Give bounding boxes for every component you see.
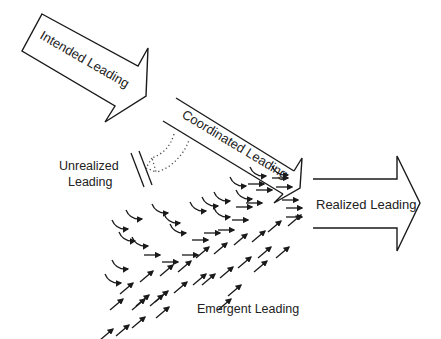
curved-arrow xyxy=(105,274,121,283)
curved-arrow xyxy=(152,204,168,213)
diagonal-arrow xyxy=(174,282,187,293)
diagonal-arrow xyxy=(220,267,233,278)
diagonal-arrow xyxy=(276,247,289,258)
diagonal-arrow xyxy=(196,247,209,258)
unrealized-leading-group: Unrealized Leading xyxy=(59,134,189,189)
curved-arrow xyxy=(190,202,206,211)
curved-arrow xyxy=(230,177,246,186)
diagonal-arrow xyxy=(238,257,251,268)
dotted-arrow-notch xyxy=(146,158,156,172)
diagonal-arrow xyxy=(120,283,133,294)
diagonal-arrow xyxy=(156,307,169,318)
curved-arrow xyxy=(214,208,230,217)
diagonal-arrow xyxy=(132,299,145,310)
diagonal-arrow xyxy=(214,243,227,254)
emergent-leading-label: Emergent Leading xyxy=(197,302,299,316)
diagonal-arrow xyxy=(132,317,145,328)
curved-arrow xyxy=(214,192,230,201)
curved-arrow xyxy=(132,237,148,246)
curved-arrow xyxy=(126,210,142,219)
curved-arrow xyxy=(202,197,218,206)
diagonal-arrow xyxy=(160,265,173,276)
unrealized-label-line1: Unrealized xyxy=(59,159,119,173)
curved-arrow xyxy=(112,260,128,269)
diagonal-arrow xyxy=(228,285,241,296)
diagonal-arrow xyxy=(110,299,123,310)
unrealized-label-line2: Leading xyxy=(68,175,113,189)
diagonal-arrow xyxy=(254,261,267,272)
diagonal-arrow xyxy=(258,247,271,258)
diagonal-arrow xyxy=(116,325,129,336)
diagonal-arrow xyxy=(234,234,247,245)
diagonal-arrow xyxy=(140,271,153,282)
curved-arrow xyxy=(170,224,186,233)
realized-leading-label: Realized Leading xyxy=(316,197,416,212)
leading-diagram: Intended Leading Coordinated Leading Unr… xyxy=(0,0,441,339)
diagonal-arrow xyxy=(268,221,281,232)
dotted-deflected-arrow xyxy=(152,134,189,172)
curved-arrow xyxy=(236,190,252,199)
diagonal-arrow xyxy=(150,295,163,306)
curved-arrow xyxy=(112,220,128,229)
curved-arrow xyxy=(164,214,180,223)
diagonal-arrow xyxy=(252,231,265,242)
diagonal-arrow xyxy=(100,329,113,339)
curved-arrow xyxy=(119,232,135,241)
realized-leading-arrow: Realized Leading xyxy=(313,156,420,251)
diagonal-arrow xyxy=(178,261,191,272)
intended-leading-arrow: Intended Leading xyxy=(22,14,148,122)
